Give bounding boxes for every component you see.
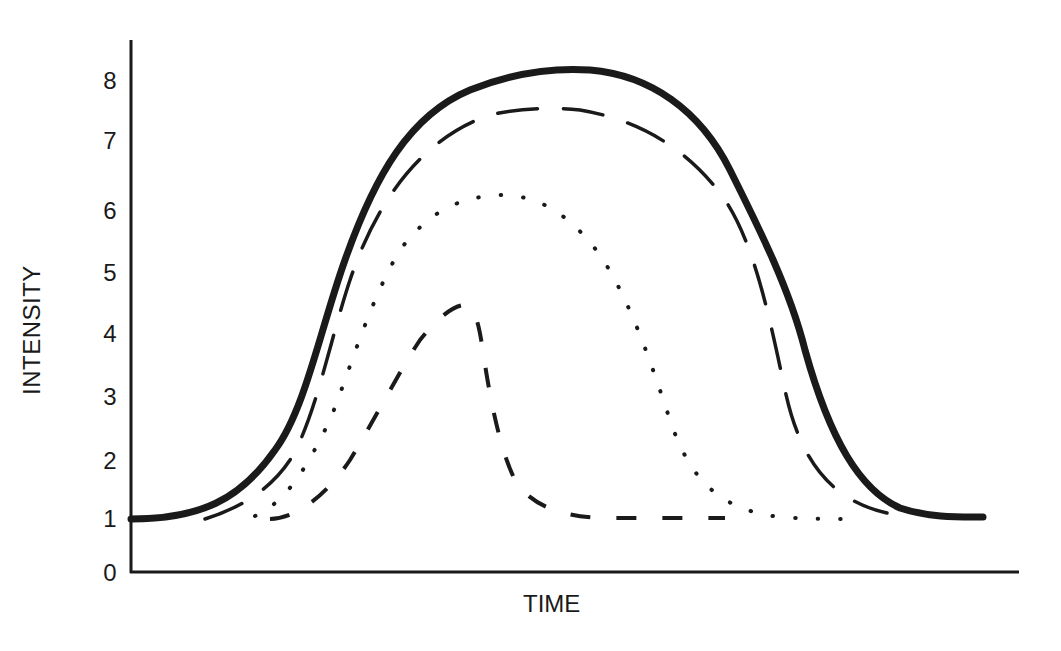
series-short-dashed-line	[270, 305, 725, 519]
x-axis-label: TIME	[523, 590, 580, 618]
y-tick-label-8: 8	[95, 69, 125, 93]
series-solid-line	[131, 69, 983, 519]
y-axis-label: INTENSITY	[18, 265, 46, 395]
y-tick-label-1: 1	[95, 507, 125, 531]
chart-canvas	[0, 0, 1061, 651]
y-tick-label-4: 4	[95, 322, 125, 346]
y-tick-label-2: 2	[95, 449, 125, 473]
y-tick-label-7: 7	[95, 129, 125, 153]
y-tick-label-3: 3	[95, 385, 125, 409]
series-long-dashed-line	[205, 108, 887, 519]
y-tick-label-5: 5	[95, 261, 125, 285]
series-dotted-line	[255, 195, 850, 519]
y-tick-label-6: 6	[95, 199, 125, 223]
y-tick-label-0: 0	[95, 561, 125, 585]
